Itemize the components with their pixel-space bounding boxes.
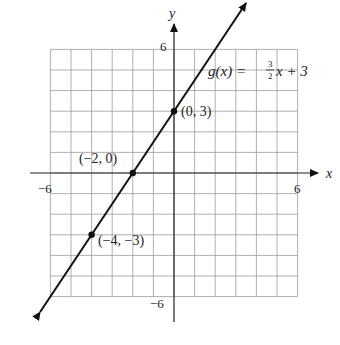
point-label-0-3: (0, 3) — [181, 104, 212, 120]
x-tick-min: −6 — [38, 181, 52, 196]
y-tick-max: 6 — [160, 39, 167, 54]
y-tick-min: −6 — [150, 296, 164, 311]
svg-text:3: 3 — [268, 59, 273, 69]
chart: x y −6 6 6 −6 g(x) = 3 2 x + 3 (0, 3) (−… — [0, 0, 340, 345]
y-axis-label: y — [167, 6, 176, 21]
data-point — [130, 170, 136, 176]
point-label-neg2-0: (−2, 0) — [79, 151, 118, 167]
x-axis-label: x — [325, 166, 333, 181]
svg-text:2: 2 — [268, 71, 273, 81]
data-point — [88, 232, 94, 238]
svg-text:g(x) =: g(x) = — [208, 63, 246, 80]
data-point — [171, 108, 177, 114]
point-label-neg4-neg3: (−4, −3) — [98, 233, 144, 249]
x-tick-max: 6 — [294, 181, 301, 196]
svg-text:x + 3: x + 3 — [275, 63, 308, 79]
